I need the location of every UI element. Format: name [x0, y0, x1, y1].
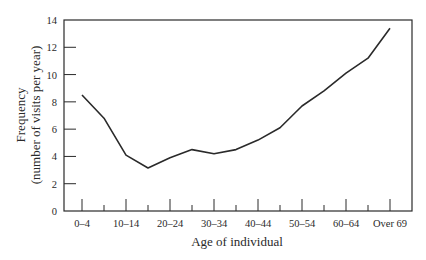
y-tick-label: 10 [47, 70, 58, 81]
x-tick-label: 50–54 [289, 218, 316, 229]
x-axis-ticks [82, 199, 390, 211]
y-tick-label: 14 [47, 15, 58, 26]
x-tick-label: 60–64 [333, 218, 360, 229]
y-axis-tick-labels: 02468101214 [47, 15, 58, 217]
y-axis-title-line-1: Frequency [13, 87, 28, 142]
x-tick-label: 10–14 [113, 218, 140, 229]
y-axis-title-line-2: (number of visits per year) [28, 46, 43, 185]
x-tick-label: 40–44 [245, 218, 272, 229]
frequency-line [82, 28, 390, 168]
y-tick-label: 2 [52, 179, 57, 190]
x-tick-label: Over 69 [373, 218, 407, 229]
y-tick-label: 6 [52, 124, 57, 135]
y-tick-label: 4 [52, 151, 58, 162]
y-tick-label: 12 [47, 42, 58, 53]
x-tick-label: 20–24 [157, 218, 184, 229]
y-axis-ticks [64, 47, 76, 183]
line-chart: 02468101214 0–410–1420–2430–3440–4450–54… [0, 0, 426, 260]
x-axis-tick-labels: 0–410–1420–2430–3440–4450–5460–64Over 69 [74, 218, 407, 229]
y-tick-label: 8 [52, 97, 57, 108]
x-tick-label: 0–4 [74, 218, 91, 229]
plot-frame [64, 20, 412, 211]
y-tick-label: 0 [52, 206, 57, 217]
x-axis-title: Age of individual [191, 234, 283, 249]
x-tick-label: 30–34 [201, 218, 228, 229]
y-axis-title: Frequency (number of visits per year) [13, 46, 43, 185]
